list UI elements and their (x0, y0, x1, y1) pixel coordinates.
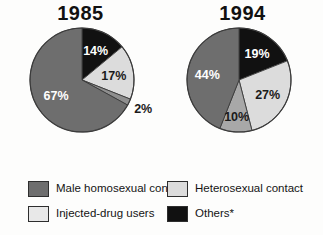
chart-title-1985: 1985 (0, 2, 161, 25)
slice-percentage-label: 19% (245, 47, 270, 61)
slice-percentage-label: 10% (224, 110, 249, 124)
slice-percentage-label: 44% (195, 68, 220, 82)
pie-chart-1985: 14%17%2%67% (0, 27, 161, 147)
legend-item-label: Heterosexual contact (195, 183, 303, 195)
chart-panel-1985: 1985 14%17%2%67% (0, 0, 161, 172)
legend-swatch-icon (167, 181, 188, 197)
slice-percentage-label: 27% (255, 88, 280, 102)
pie-svg-1994: 19%27%10%44% (162, 27, 323, 147)
chart-title-1994: 1994 (162, 2, 323, 25)
legend-swatch-icon (28, 206, 49, 222)
pie-chart-1994: 19%27%10%44% (162, 27, 323, 147)
slice-percentage-label: 14% (83, 44, 108, 58)
legend-item-heterosexual-contact[interactable]: Heterosexual contact (163, 178, 323, 200)
chart-panel-1994: 1994 19%27%10%44% (162, 0, 323, 172)
legend-item-label: Injected-drug users (56, 208, 154, 220)
slice-percentage-label: 2% (134, 102, 152, 116)
legend-row-1: Male homosexual contact Heterosexual con… (0, 178, 323, 200)
pie-charts-figure: 1985 14%17%2%67% 1994 19%27%10%44% (0, 0, 323, 172)
legend-swatch-icon (167, 206, 188, 222)
slice-percentage-label: 17% (101, 69, 126, 83)
legend-item-male-homosexual-contact[interactable]: Male homosexual contact (0, 178, 163, 200)
pie-svg-1985: 14%17%2%67% (0, 27, 161, 147)
legend-swatch-icon (28, 181, 49, 197)
legend-item-others[interactable]: Others* (163, 203, 323, 225)
slice-percentage-label: 67% (43, 89, 68, 103)
legend-row-2: Injected-drug users Others* (0, 203, 323, 225)
legend-item-label: Others* (195, 208, 234, 220)
legend: Male homosexual contact Heterosexual con… (0, 174, 323, 235)
legend-item-injected-drug-users[interactable]: Injected-drug users (0, 203, 163, 225)
